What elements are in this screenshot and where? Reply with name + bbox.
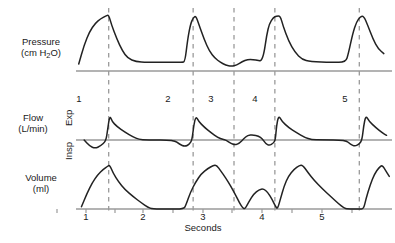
pressure-label-line1: Pressure — [4, 36, 78, 47]
flow-label-line1: Flow — [4, 112, 62, 123]
breath-number-5: 5 — [339, 93, 351, 104]
flow-direction-insp-label: Insp — [63, 142, 74, 160]
pressure-label-line2: (cm H2O) — [4, 47, 78, 59]
x-tick-label-4: 4 — [255, 211, 269, 222]
ventilator-waveform-figure: Pressure (cm H2O) Flow (L/min) Exp Insp … — [0, 0, 395, 243]
volume-label-line2: (ml) — [4, 183, 78, 194]
breath-number-2: 2 — [162, 93, 174, 104]
flow-label-line2: (L/min) — [4, 123, 62, 134]
x-tick-label-3: 3 — [196, 211, 210, 222]
pressure-axis-label: Pressure (cm H2O) — [4, 36, 78, 59]
trace-volume — [81, 165, 389, 209]
x-tick-label-2: 2 — [136, 211, 150, 222]
x-axis-title: Seconds — [168, 222, 238, 233]
flow-axis-label: Flow (L/min) — [4, 112, 62, 134]
volume-axis-label: Volume (ml) — [4, 172, 78, 194]
water-subscript: 2 — [46, 51, 50, 60]
x-tick-label-5: 5 — [315, 211, 329, 222]
x-tick-label-1: 1 — [79, 211, 93, 222]
flow-direction-exp-label: Exp — [63, 110, 74, 126]
breath-number-1: 1 — [73, 93, 85, 104]
breath-number-4: 4 — [249, 93, 261, 104]
trace-pressure — [79, 15, 384, 66]
trace-flow — [84, 117, 386, 148]
volume-label-line1: Volume — [4, 172, 78, 183]
breath-number-3: 3 — [205, 93, 217, 104]
